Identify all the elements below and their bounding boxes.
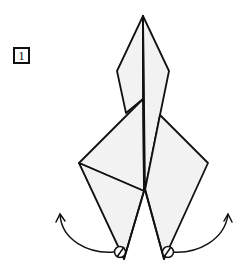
origami-diagram <box>0 0 244 267</box>
head-kite-left <box>117 16 143 113</box>
center-crease <box>143 16 144 191</box>
